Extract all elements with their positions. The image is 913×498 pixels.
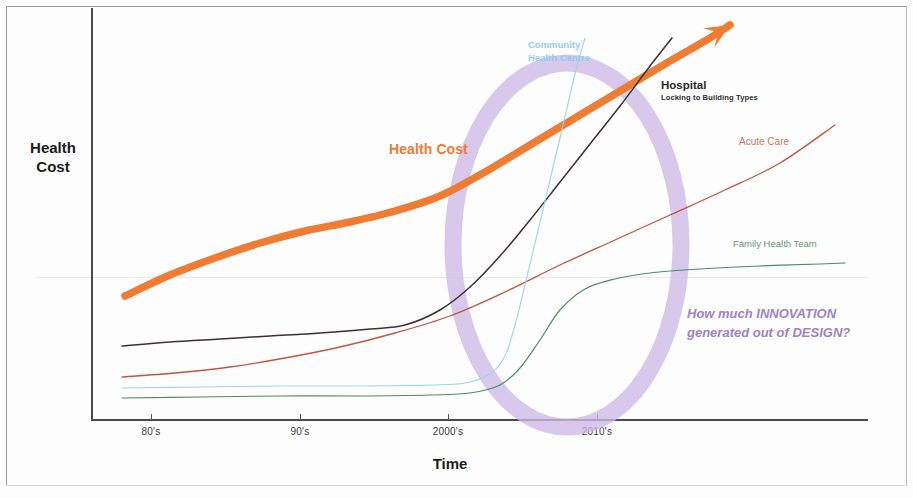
series-label-community-health-centre: Community Health Centre	[528, 39, 590, 65]
series-label-acute-care: Acute Care	[739, 136, 789, 147]
highlight-ellipse-layer	[453, 63, 681, 427]
chc-label-line2: Health Centre	[528, 52, 590, 63]
question-line1: How much INNOVATION	[687, 305, 850, 324]
series-path-hospital	[122, 38, 672, 346]
chc-label-line1: Community	[528, 39, 580, 50]
question-line2: generated out of DESIGN?	[687, 324, 850, 343]
series-path-health-cost	[125, 25, 730, 296]
chart-series-layer	[0, 0, 913, 498]
highlight-ellipse	[453, 63, 681, 427]
series-sublabel-hospital: Locking to Building Types	[661, 93, 758, 102]
chart-canvas: 80's90's2000's2010's Health Cost Time He…	[0, 0, 913, 498]
series-label-family-health-team: Family Health Team	[733, 238, 817, 249]
annotation-innovation-question: How much INNOVATION generated out of DES…	[687, 305, 850, 343]
series-label-hospital: Hospital	[661, 79, 706, 91]
series-label-health-cost: Health Cost	[389, 141, 468, 157]
